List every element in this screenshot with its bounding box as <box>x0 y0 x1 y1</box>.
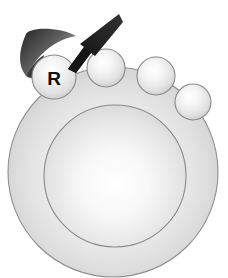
figure-root: R <box>0 0 228 278</box>
sphere-r-label: R <box>47 68 61 89</box>
inner-circle <box>44 105 186 247</box>
sphere-2 <box>87 49 125 87</box>
diagram-canvas: R <box>0 0 228 278</box>
sphere-3 <box>137 57 175 95</box>
sphere-4 <box>175 84 211 120</box>
